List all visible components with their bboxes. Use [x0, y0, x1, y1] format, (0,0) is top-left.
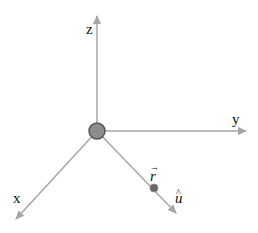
svg-text:→: →	[150, 162, 159, 172]
position-vector-label: r →	[150, 162, 159, 184]
y-axis-label: y	[232, 111, 240, 127]
unit-vector-label: u ^	[175, 187, 183, 206]
svg-text:^: ^	[176, 187, 181, 198]
position-vector-line	[97, 131, 176, 213]
position-point	[150, 184, 158, 192]
coordinate-diagram: z y x r → u ^	[0, 0, 258, 233]
x-axis-label: x	[13, 190, 21, 206]
x-axis	[16, 131, 97, 219]
origin-sphere	[89, 123, 105, 139]
z-axis-label: z	[86, 21, 93, 37]
